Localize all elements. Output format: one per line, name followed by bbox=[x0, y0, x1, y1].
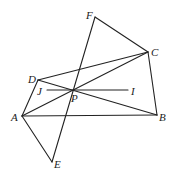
segment-db bbox=[38, 80, 157, 115]
segment-ea bbox=[22, 116, 52, 162]
label-e: E bbox=[53, 158, 61, 170]
label-i: I bbox=[130, 85, 136, 97]
label-p: P bbox=[70, 92, 78, 104]
segment-dc bbox=[38, 52, 148, 80]
segment-cf bbox=[95, 17, 148, 52]
label-d: D bbox=[27, 73, 36, 85]
segment-bc bbox=[148, 52, 157, 115]
label-f: F bbox=[85, 9, 93, 21]
label-a: A bbox=[10, 111, 18, 123]
segment-ab bbox=[22, 115, 157, 116]
label-j: J bbox=[37, 85, 43, 97]
label-c: C bbox=[151, 46, 159, 58]
geometry-diagram: F C D J I P A B E bbox=[0, 0, 176, 180]
segment-ad bbox=[22, 80, 38, 116]
label-b: B bbox=[159, 111, 166, 123]
